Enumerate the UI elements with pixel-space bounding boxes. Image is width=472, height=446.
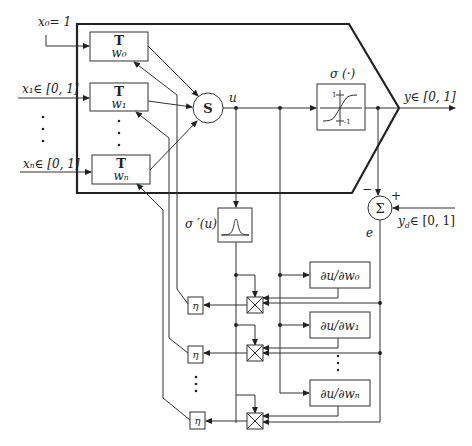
derivative-block: σ ′(u) (185, 208, 252, 242)
input-x1: x₀= 1 x₁∈ [0, 1] (18, 82, 89, 98)
partial-block-w1-label: ∂u/∂w₁ (320, 319, 359, 333)
sum-node: S (193, 93, 223, 123)
multiplier-1 (247, 345, 263, 361)
weight-ellipsis (118, 120, 121, 147)
learning-rate-1-label: η (193, 349, 199, 360)
partial-block-w0-label: ∂u/∂w₀ (320, 269, 359, 283)
partial-block-wn: ∂u/∂wₙ (310, 380, 370, 406)
output-label: y∈ [0, 1] (403, 90, 456, 104)
activation-label: σ (·) (330, 67, 356, 81)
weight-block-wn: T wₙ (92, 155, 150, 184)
eta-ellipsis (195, 376, 198, 393)
weight-block-w1: T w₁ (90, 83, 148, 111)
weight-block-w0: T w₀ (90, 32, 148, 61)
learning-rate-0-label: η (193, 300, 199, 311)
multiplier-n (247, 413, 263, 429)
input-xn-label: xₙ∈ [0, 1] (23, 157, 80, 171)
weight-block-wn-weight: wₙ (113, 169, 128, 183)
activation-tick-low: -1 (344, 118, 351, 126)
learning-rate-1: η (188, 346, 203, 363)
input-x1-text: x₁∈ [0, 1] (22, 82, 79, 96)
learning-rate-n: η (190, 412, 205, 429)
partial-ellipsis (337, 355, 339, 371)
partial-block-wn-label: ∂u/∂wₙ (320, 387, 359, 401)
neuron-learning-diagram: x₀= 1 x₀= 1 x₁∈ [0, 1] xₙ∈ [0, 1] T w₀ T… (0, 0, 472, 446)
learning-rate-n-label: η (195, 415, 201, 426)
activation-tick-high: 1 (332, 91, 336, 99)
partial-block-w0: ∂u/∂w₀ (310, 262, 370, 288)
learning-rate-0: η (188, 297, 203, 314)
plus-sign: + (391, 189, 401, 203)
input-ellipsis (42, 116, 45, 143)
multiplier-0 (247, 297, 263, 313)
partial-block-w1: ∂u/∂w₁ (310, 312, 370, 338)
activation-block: σ (·) 1 -1 (317, 67, 365, 130)
desired-output-label: yd∈ [0, 1] (397, 214, 455, 230)
error-label: e (366, 226, 373, 240)
weight-block-w1-weight: w₁ (111, 97, 126, 111)
input-x0: x₀= 1 (38, 15, 89, 46)
minus-sign: − (362, 182, 372, 196)
error-sum-node: Σ (368, 196, 392, 220)
input-x0-label: x₀= 1 (38, 15, 71, 29)
weight-block-w0-weight: w₀ (111, 46, 126, 60)
input-xn: xₙ∈ [0, 1] (20, 157, 91, 172)
sum-node-label: S (203, 101, 212, 116)
derivative-label: σ ′(u) (185, 217, 217, 231)
error-sum-label: Σ (375, 201, 384, 216)
net-signal-label: u (229, 91, 237, 105)
